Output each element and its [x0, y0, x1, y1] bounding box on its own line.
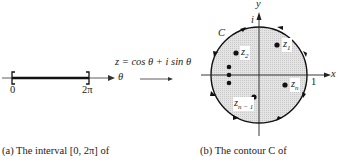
- label-zn: zn: [290, 78, 300, 92]
- one-label: 1: [311, 76, 316, 87]
- y-axis-label: y: [256, 0, 261, 9]
- theta-label: θ: [118, 71, 123, 82]
- i-label: i: [251, 14, 254, 25]
- theta-axis: [2, 72, 115, 84]
- point-dot-3: [227, 81, 232, 86]
- label-zn-1: zn − 1: [233, 97, 254, 111]
- point-dot-1: [227, 65, 232, 70]
- label-z1: z1: [282, 38, 292, 52]
- point-zn: [282, 82, 287, 87]
- caption-a: (a) The interval [0, 2π] of: [2, 145, 109, 156]
- tick-zero: 0: [10, 84, 15, 95]
- label-z2: z2: [240, 46, 250, 60]
- diagram-canvas: [0, 0, 339, 162]
- point-dot-2: [227, 73, 232, 78]
- point-z2: [233, 50, 238, 55]
- caption-b: (b) The contour C of: [200, 145, 287, 156]
- mapping-formula: z = cos θ + i sin θ: [115, 56, 191, 67]
- x-axis-label: x: [331, 68, 336, 79]
- contour-c-label: C: [218, 27, 225, 38]
- tick-two-pi: 2π: [82, 84, 93, 95]
- mapping-arrow: [140, 77, 173, 81]
- point-z1: [274, 42, 279, 47]
